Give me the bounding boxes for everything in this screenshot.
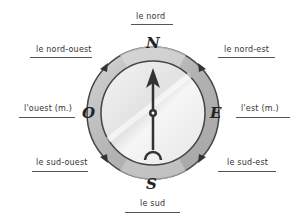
label-nord-est: le nord-est (224, 45, 269, 54)
label-ouest: l'ouest (m.) (24, 104, 72, 113)
line-sud-ouest (32, 171, 88, 172)
southwest-marker-icon (100, 154, 108, 163)
northwest-marker-icon (100, 63, 108, 72)
line-sud-est (218, 171, 276, 172)
label-sud-ouest: le sud-ouest (36, 158, 88, 167)
label-nord: le nord (136, 12, 165, 21)
northeast-marker-icon (198, 63, 206, 72)
label-nord-ouest: le nord-ouest (36, 45, 92, 54)
line-nord (131, 24, 173, 25)
label-sud-est: le sud-est (227, 158, 268, 167)
east-letter: E (210, 104, 222, 122)
line-est (236, 117, 290, 118)
label-est: l'est (m.) (241, 104, 279, 113)
line-nord-ouest (30, 57, 92, 58)
line-sud (125, 212, 180, 213)
north-letter: N (146, 34, 160, 52)
south-letter: S (146, 175, 157, 193)
label-sud: le sud (140, 199, 165, 208)
southeast-marker-icon (198, 154, 206, 163)
west-letter: O (82, 104, 95, 122)
line-nord-est (218, 57, 275, 58)
line-ouest (19, 117, 75, 118)
